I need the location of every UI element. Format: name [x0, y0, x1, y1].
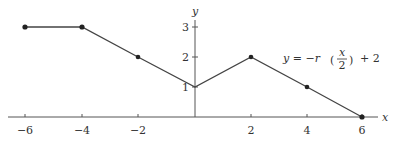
formula-lhs: y = −r [282, 52, 321, 65]
data-point [305, 85, 310, 90]
x-tick-label: 2 [248, 124, 255, 137]
formula-denominator: 2 [339, 59, 346, 72]
data-point [249, 55, 254, 60]
formula-rhs: + 2 [360, 52, 380, 65]
formula-annotation: y = −r ( x 2 ) + 2 [282, 46, 380, 72]
x-axis-label: x [382, 111, 389, 124]
data-point [136, 55, 141, 60]
data-point [359, 114, 364, 119]
x-tick-label: 6 [359, 124, 366, 137]
formula-paren-right: ) [349, 54, 353, 67]
data-point [79, 24, 84, 29]
piecewise-linear-chart: −6 −4 −2 2 4 6 1 2 3 x y y = −r ( x 2 ) … [0, 0, 401, 143]
formula-numerator: x [339, 46, 346, 59]
y-tick-label: 3 [182, 21, 189, 34]
x-tick-label: −4 [74, 124, 90, 137]
x-tick-label: 4 [304, 124, 311, 137]
formula-paren-left: ( [330, 54, 334, 67]
x-tick-label: −6 [17, 124, 33, 137]
y-axis-label: y [191, 5, 199, 18]
x-tick-label: −2 [130, 124, 146, 137]
y-tick-label: 2 [182, 51, 189, 64]
data-point [22, 24, 27, 29]
data-points [22, 24, 364, 119]
function-curve [25, 27, 362, 117]
